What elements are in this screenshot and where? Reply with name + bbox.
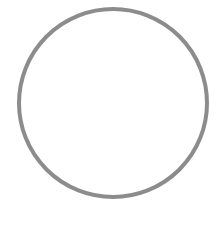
circle-outline bbox=[19, 9, 207, 197]
empty-circle-icon bbox=[0, 0, 219, 228]
canvas bbox=[0, 0, 219, 228]
